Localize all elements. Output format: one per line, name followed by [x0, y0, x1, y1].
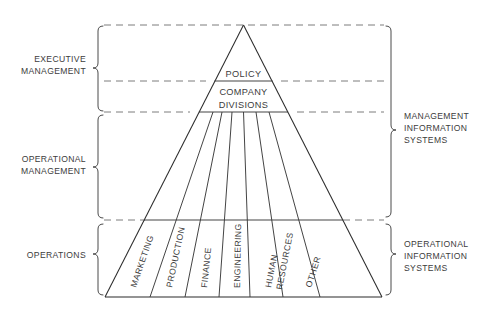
- brace-executive-management: [93, 26, 103, 111]
- right-label-group: MANAGEMENT INFORMATION SYSTEMS OPERATION…: [404, 111, 469, 273]
- diagram-canvas: EXECUTIVE MANAGEMENT OPERATIONAL MANAGEM…: [0, 0, 488, 322]
- brace-operational-management: [93, 115, 103, 218]
- right-braces: [386, 26, 396, 295]
- label-management-information-systems-line-3: SYSTEMS: [404, 135, 448, 145]
- brace-operations: [93, 224, 103, 295]
- brace-operational-information-systems: [386, 224, 396, 295]
- pyramid-diagram: EXECUTIVE MANAGEMENT OPERATIONAL MANAGEM…: [0, 0, 488, 322]
- label-operational-information-systems-line-2: INFORMATION: [404, 251, 467, 261]
- label-policy: POLICY: [226, 69, 262, 79]
- label-operational-information-systems-line-3: SYSTEMS: [404, 263, 448, 273]
- label-management-information-systems-line-2: INFORMATION: [404, 123, 467, 133]
- label-management-information-systems-line-1: MANAGEMENT: [404, 111, 469, 121]
- label-operational-information-systems-line-1: OPERATIONAL: [404, 239, 468, 249]
- label-company-divisions-line-2: DIVISIONS: [219, 100, 269, 110]
- label-other: OTHER: [303, 255, 322, 289]
- division-line-3: [219, 112, 232, 297]
- label-executive-management-line-1: EXECUTIVE: [34, 54, 86, 64]
- brace-management-information-systems: [386, 26, 396, 217]
- label-company-divisions-line-1: COMPANY: [219, 87, 267, 97]
- label-operational-management-line-2: MANAGEMENT: [21, 166, 86, 176]
- label-executive-management-line-2: MANAGEMENT: [21, 66, 86, 76]
- division-line-4: [244, 112, 251, 297]
- label-finance: FINANCE: [199, 247, 213, 288]
- department-labels: MARKETING PRODUCTION FINANCE ENGINEERING…: [128, 223, 322, 290]
- label-operational-management-line-1: OPERATIONAL: [22, 154, 86, 164]
- label-production: PRODUCTION: [164, 226, 187, 289]
- label-engineering: ENGINEERING: [232, 223, 243, 288]
- label-operations: OPERATIONS: [27, 250, 86, 260]
- left-label-group: EXECUTIVE MANAGEMENT OPERATIONAL MANAGEM…: [21, 54, 86, 260]
- pyramid-tier-labels: POLICY COMPANY DIVISIONS: [219, 69, 269, 110]
- left-braces: [93, 26, 103, 295]
